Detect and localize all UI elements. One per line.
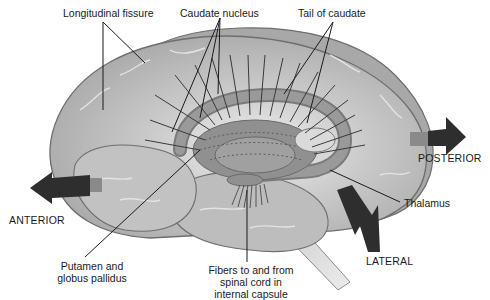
label-tail-of-caudate: Tail of caudate <box>298 7 366 19</box>
putamen-line-2: globus pallidus <box>42 272 142 284</box>
brain-diagram <box>0 0 490 300</box>
label-fibers-internal-capsule: Fibers to and from spinal cord in intern… <box>196 264 306 300</box>
label-lateral: LATERAL <box>366 255 413 267</box>
label-longitudinal-fissure: Longitudinal fissure <box>63 7 153 19</box>
amygdala <box>227 174 263 186</box>
putamen-line-1: Putamen and <box>42 260 142 272</box>
label-thalamus: Thalamus <box>404 197 450 209</box>
label-caudate-nucleus: Caudate nucleus <box>180 7 259 19</box>
label-posterior: POSTERIOR <box>418 152 482 164</box>
label-putamen-globus-pallidus: Putamen and globus pallidus <box>42 260 142 284</box>
fibers-line-1: Fibers to and from <box>196 264 306 276</box>
thalamus <box>295 128 335 152</box>
label-anterior: ANTERIOR <box>9 214 65 226</box>
fibers-line-2: spinal cord in <box>196 276 306 288</box>
fibers-line-3: internal capsule <box>196 288 306 300</box>
putamen <box>193 120 317 180</box>
